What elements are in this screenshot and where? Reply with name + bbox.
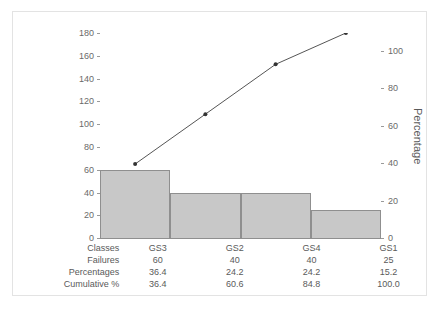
table-row: Failures60404025 bbox=[12, 254, 427, 266]
table-cell: 40 bbox=[196, 254, 273, 266]
table-row-label: Cumulative % bbox=[12, 278, 119, 290]
tickmark-right-60 bbox=[381, 126, 384, 127]
bar-series bbox=[100, 33, 381, 239]
bar-gs1 bbox=[311, 210, 381, 239]
data-table: ClassesGS3GS2GS4GS1Failures60404025Perce… bbox=[12, 242, 427, 290]
table-cell: 60.6 bbox=[196, 278, 273, 290]
tickmark-right-40 bbox=[381, 163, 384, 164]
tickmark-right-20 bbox=[381, 201, 384, 202]
tickmark-right-80 bbox=[381, 88, 384, 89]
table-cell: 40 bbox=[273, 254, 350, 266]
bar-gs2 bbox=[170, 193, 240, 239]
table-row-label: Classes bbox=[12, 242, 119, 254]
pareto-chart-figure: Failures Percentage 180 160 140 120 100 … bbox=[0, 0, 439, 310]
table-cell: 36.4 bbox=[119, 278, 196, 290]
table-row: ClassesGS3GS2GS4GS1 bbox=[12, 242, 427, 254]
table-cell: GS4 bbox=[273, 242, 350, 254]
table-cell: GS1 bbox=[350, 242, 427, 254]
table-row-label: Percentages bbox=[12, 266, 119, 278]
bar-gs4 bbox=[241, 193, 311, 239]
table-cell: 24.2 bbox=[273, 266, 350, 278]
pareto-data-table: ClassesGS3GS2GS4GS1Failures60404025Perce… bbox=[12, 242, 427, 290]
table-cell: 84.8 bbox=[273, 278, 350, 290]
table-cell: 15.2 bbox=[350, 266, 427, 278]
table-cell: 100.0 bbox=[350, 278, 427, 290]
tickmark-right-0 bbox=[381, 238, 384, 239]
table-cell: 24.2 bbox=[196, 266, 273, 278]
table-cell: 60 bbox=[119, 254, 196, 266]
table-row-label: Failures bbox=[12, 254, 119, 266]
tickmark-right-100 bbox=[381, 51, 384, 52]
table-row: Percentages36.424.224.215.2 bbox=[12, 266, 427, 278]
table-cell: 25 bbox=[350, 254, 427, 266]
table-cell: GS3 bbox=[119, 242, 196, 254]
table-row: Cumulative %36.460.684.8100.0 bbox=[12, 278, 427, 290]
table-cell: GS2 bbox=[196, 242, 273, 254]
bar-gs3 bbox=[100, 170, 170, 239]
table-cell: 36.4 bbox=[119, 266, 196, 278]
